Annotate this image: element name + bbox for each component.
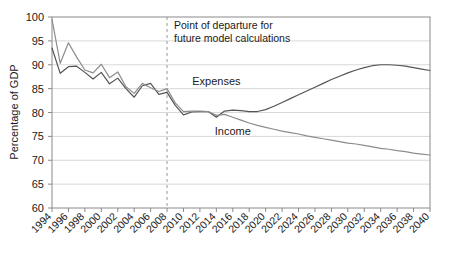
chart-container: 6065707580859095100 19941996199820002002…: [0, 0, 451, 257]
y-tick-label-80: 80: [32, 107, 44, 119]
gdp-percentage-line-chart: 6065707580859095100 19941996199820002002…: [0, 0, 451, 257]
y-tick-label-65: 65: [32, 178, 44, 190]
y-tick-label-70: 70: [32, 154, 44, 166]
y-tick-label-90: 90: [32, 59, 44, 71]
y-axis-title-label: Percentage of GDP: [8, 64, 20, 159]
annotation-line-1: Point of departure for: [174, 19, 273, 31]
y-tick-label-85: 85: [32, 83, 44, 95]
x-tick-label-2040: 2040: [406, 210, 431, 235]
y-tick-label-95: 95: [32, 35, 44, 47]
series-label-expenses: Expenses: [192, 75, 241, 87]
x-axis-tick-labels: 1994199619982000200220042006200820102012…: [28, 210, 431, 235]
y-axis-tick-marks: [48, 17, 52, 208]
y-tick-label-100: 100: [26, 11, 44, 23]
y-axis-tick-labels: 6065707580859095100: [26, 11, 44, 214]
annotation-line-2: future model calculations: [174, 32, 290, 44]
y-tick-label-75: 75: [32, 130, 44, 142]
series-label-income: Income: [215, 125, 251, 137]
y-axis-title: Percentage of GDP: [8, 64, 20, 159]
